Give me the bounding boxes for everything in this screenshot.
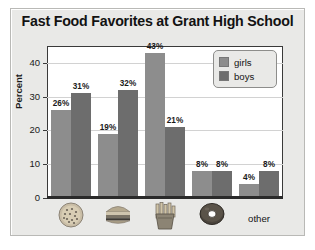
y-tick-mark bbox=[43, 97, 47, 98]
bar-boys-french fries bbox=[165, 127, 185, 198]
bar-girls-hamburger bbox=[98, 134, 118, 198]
legend-item-girls: girls bbox=[219, 55, 271, 69]
y-tick-label: 10 bbox=[18, 158, 40, 169]
bar-value-label: 8% bbox=[208, 160, 236, 169]
y-tick-mark bbox=[43, 164, 47, 165]
bar-value-label: 31% bbox=[67, 82, 95, 91]
legend: girls boys bbox=[213, 50, 277, 88]
bar-value-label: 43% bbox=[141, 42, 169, 51]
legend-swatch-girls-icon bbox=[219, 57, 229, 67]
y-tick-mark bbox=[43, 63, 47, 64]
pizza-icon bbox=[57, 202, 85, 232]
y-tick-label: 0 bbox=[18, 192, 40, 203]
bar-girls-french fries bbox=[145, 53, 165, 198]
bar-value-label: 21% bbox=[161, 116, 189, 125]
bar-girls-pizza bbox=[51, 110, 71, 198]
bar-value-label: 19% bbox=[94, 123, 122, 132]
chart-title: Fast Food Favorites at Grant High School bbox=[10, 13, 305, 29]
chart-screenshot: Fast Food Favorites at Grant High School… bbox=[0, 0, 315, 250]
bar-value-label: 8% bbox=[255, 160, 283, 169]
y-tick-mark bbox=[43, 130, 47, 131]
legend-label-boys: boys bbox=[234, 71, 254, 82]
legend-swatch-boys-icon bbox=[219, 71, 229, 81]
bar-value-label: 4% bbox=[235, 173, 263, 182]
x-axis-label-other: other bbox=[237, 213, 281, 224]
legend-item-boys: boys bbox=[219, 69, 271, 83]
legend-label-girls: girls bbox=[234, 57, 252, 68]
bar-girls-donut bbox=[192, 171, 212, 198]
bar-boys-pizza bbox=[71, 93, 91, 198]
bar-value-label: 26% bbox=[47, 99, 75, 108]
french-fries-icon bbox=[151, 202, 179, 234]
donut-icon bbox=[198, 202, 226, 230]
bar-value-label: 32% bbox=[114, 79, 142, 88]
y-tick-label: 40 bbox=[18, 57, 40, 68]
bar-boys-hamburger bbox=[118, 90, 138, 198]
hamburger-icon bbox=[104, 202, 132, 230]
y-tick-label: 20 bbox=[18, 124, 40, 135]
y-tick-label: 30 bbox=[18, 91, 40, 102]
x-axis-line bbox=[47, 196, 283, 199]
bar-boys-donut bbox=[212, 171, 232, 198]
